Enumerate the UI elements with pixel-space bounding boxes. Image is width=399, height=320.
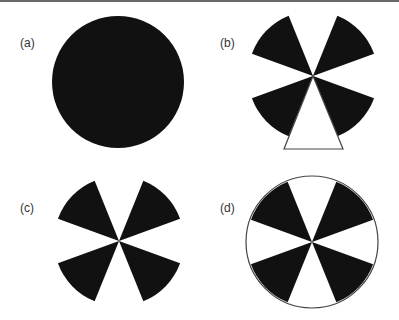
panel-c-sectors [58,181,180,302]
figure-canvas [0,0,399,320]
solid-disc [52,16,184,148]
black-sector [119,241,180,301]
panel-d-sectors [246,176,378,308]
black-sector [252,16,313,76]
black-sector [58,181,119,241]
black-sector [313,16,374,76]
black-sector [119,181,180,241]
panel-a-disc [52,16,184,148]
black-sector [58,241,119,301]
panel-b-sectors [252,16,374,149]
